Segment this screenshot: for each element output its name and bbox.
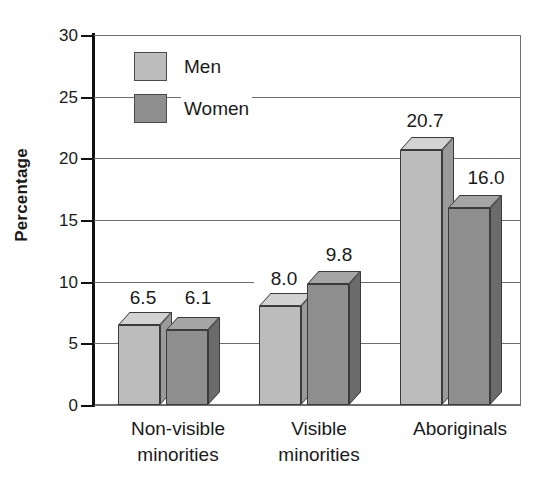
tick-25 <box>81 97 93 99</box>
x-label-aboriginals: Aboriginals <box>375 416 545 442</box>
bar-front <box>307 284 349 405</box>
tick-15 <box>81 220 93 222</box>
tick-10 <box>81 282 93 284</box>
bar-front <box>259 306 301 405</box>
legend-item-men: Men <box>134 47 252 85</box>
x-label-line1: Aboriginals <box>375 416 545 442</box>
bar-side <box>349 271 361 405</box>
plot-area: 30 25 20 15 10 5 0 Men Women <box>94 35 521 405</box>
y-tick-label-15: 15 <box>38 212 78 229</box>
y-axis-title: Percentage <box>12 135 32 255</box>
bar-side <box>208 316 220 405</box>
legend-swatch-women <box>134 94 167 123</box>
bar-front <box>118 325 160 405</box>
legend-item-women: Women <box>134 89 252 127</box>
y-tick-label-10: 10 <box>38 273 78 290</box>
bar-value-label: 9.8 <box>309 244 369 265</box>
tick-20 <box>81 158 93 160</box>
bar-value-label: 16.0 <box>456 167 516 188</box>
legend-swatch-men <box>134 52 167 81</box>
legend-label-women: Women <box>181 97 252 120</box>
bar-value-label: 6.5 <box>113 287 173 308</box>
y-tick-label-5: 5 <box>38 335 78 352</box>
y-tick-label-30: 30 <box>38 27 78 44</box>
bar-front <box>166 330 208 405</box>
bar-front <box>448 208 490 405</box>
bar-value-label: 6.1 <box>168 287 228 308</box>
bar-value-label: 8.0 <box>254 268 314 289</box>
bar-front <box>400 150 442 405</box>
bar-group-visible-minorities: 8.0 9.8 <box>259 35 379 405</box>
tick-30 <box>81 35 93 37</box>
legend: Men Women <box>134 47 252 131</box>
y-tick-label-20: 20 <box>38 150 78 167</box>
gridline-0 <box>94 405 521 406</box>
y-tick-label-0: 0 <box>38 397 78 414</box>
tick-0 <box>81 405 93 407</box>
legend-label-men: Men <box>181 55 224 78</box>
bar-side <box>490 194 502 405</box>
y-tick-label-25: 25 <box>38 88 78 105</box>
bar-chart: Percentage 30 25 20 15 10 5 0 Men <box>0 0 554 488</box>
bar-value-label: 20.7 <box>395 110 455 131</box>
x-axis-labels: Non-visible minorities Visible minoritie… <box>94 412 521 482</box>
bar-group-aboriginals: 20.7 16.0 <box>400 35 520 405</box>
tick-5 <box>81 343 93 345</box>
x-label-line2: minorities <box>234 442 404 468</box>
